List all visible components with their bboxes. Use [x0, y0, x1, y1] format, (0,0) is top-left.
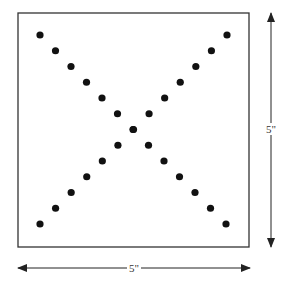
dot — [114, 142, 121, 149]
dot — [207, 205, 214, 212]
dot — [145, 110, 152, 117]
height-label: 5" — [264, 123, 278, 135]
dot — [177, 79, 184, 86]
dot — [208, 47, 215, 54]
dot — [52, 205, 59, 212]
dot — [145, 142, 152, 149]
dot — [223, 31, 230, 38]
dot — [99, 157, 106, 164]
dot — [114, 110, 121, 117]
dot — [98, 94, 105, 101]
dot — [222, 220, 229, 227]
dot — [191, 189, 198, 196]
dot — [83, 79, 90, 86]
dot — [130, 126, 137, 133]
dot — [83, 173, 90, 180]
dot — [192, 63, 199, 70]
dot — [161, 94, 168, 101]
width-label: 5" — [127, 262, 141, 274]
dot — [68, 189, 75, 196]
x-dot-diagram — [0, 0, 290, 281]
dot — [67, 63, 74, 70]
dot — [36, 31, 43, 38]
dot — [36, 220, 43, 227]
dot — [52, 47, 59, 54]
dot-group — [36, 31, 230, 227]
dot — [160, 157, 167, 164]
dot — [176, 173, 183, 180]
